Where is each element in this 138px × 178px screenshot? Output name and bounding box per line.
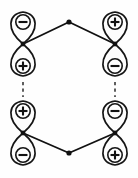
orbitals-layer xyxy=(11,12,127,165)
top-right-orbital xyxy=(103,12,127,76)
bottom-left-orbital-bottom-lobe xyxy=(11,133,35,165)
bottom-left-orbital-node-dot xyxy=(21,131,26,136)
orbital-phase-diagram xyxy=(0,0,138,178)
diagram-canvas xyxy=(0,0,138,178)
bottom-right-orbital-bottom-lobe xyxy=(103,133,127,165)
bonds-layer xyxy=(23,22,115,153)
top-apex-vertex xyxy=(66,19,71,24)
top-right-orbital-node-dot xyxy=(113,42,118,47)
bottom-right-orbital xyxy=(103,101,127,165)
bottom-left-orbital xyxy=(11,101,35,165)
top-left-orbital xyxy=(11,12,35,76)
partial-bonds-layer xyxy=(23,82,115,97)
bottom-apex-vertex xyxy=(66,150,71,155)
top-left-orbital-node-dot xyxy=(21,42,26,47)
vertices-layer xyxy=(66,19,71,155)
top-right-orbital-bottom-lobe xyxy=(103,44,127,76)
top-left-orbital-bottom-lobe xyxy=(11,44,35,76)
bottom-left-orbital-top-lobe xyxy=(11,101,35,133)
bottom-right-orbital-node-dot xyxy=(113,131,118,136)
bottom-right-orbital-top-lobe xyxy=(103,101,127,133)
